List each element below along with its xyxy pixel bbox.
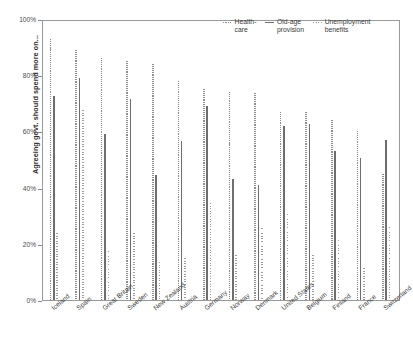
bar-healthcare bbox=[254, 93, 256, 300]
bar-healthcare bbox=[50, 39, 52, 300]
bar-group bbox=[101, 21, 110, 300]
bar-fill bbox=[155, 175, 157, 300]
bar-healthcare bbox=[126, 61, 128, 300]
bar-old-age bbox=[309, 124, 311, 300]
bar-group bbox=[75, 21, 84, 300]
bar-unemployment bbox=[133, 233, 135, 300]
bar-fill bbox=[382, 174, 384, 300]
bar-fill bbox=[82, 110, 84, 300]
bar-fill bbox=[363, 268, 365, 300]
legend-item[interactable]: Old-age provision bbox=[265, 18, 304, 35]
legend-label: Health- care bbox=[235, 18, 257, 35]
bar-unemployment bbox=[338, 240, 340, 300]
dashed-line-marker bbox=[223, 19, 232, 26]
bar-healthcare bbox=[178, 81, 180, 300]
bar-old-age bbox=[258, 185, 260, 300]
bar-unemployment bbox=[312, 255, 314, 300]
bar-fill bbox=[178, 81, 180, 300]
bar-fill bbox=[261, 228, 263, 300]
bar-fill bbox=[287, 214, 289, 300]
bar-fill bbox=[210, 203, 212, 300]
bar-group bbox=[126, 21, 135, 300]
bar-fill bbox=[50, 39, 52, 300]
bar-fill bbox=[309, 124, 311, 300]
y-axis-tick-mark bbox=[38, 301, 42, 302]
bar-fill bbox=[79, 78, 81, 300]
bar-fill bbox=[108, 251, 110, 300]
bar-fill bbox=[229, 92, 231, 300]
bar-fill bbox=[283, 126, 285, 300]
bar-unemployment bbox=[210, 203, 212, 300]
legend-item[interactable]: Health- care bbox=[223, 18, 256, 35]
bar-fill bbox=[130, 99, 132, 300]
bar-fill bbox=[206, 106, 208, 300]
bar-unemployment bbox=[287, 214, 289, 300]
chart-legend: Health- careOld-age provisionUnemploymen… bbox=[223, 18, 370, 35]
bar-group bbox=[50, 21, 59, 300]
bar-group bbox=[152, 21, 161, 300]
bar-fill bbox=[181, 141, 183, 300]
bar-fill bbox=[56, 233, 58, 300]
bar-old-age bbox=[79, 78, 81, 300]
bar-series-container bbox=[43, 21, 399, 300]
bar-fill bbox=[254, 93, 256, 300]
bar-fill bbox=[104, 134, 106, 300]
bar-group bbox=[254, 21, 263, 300]
bar-fill bbox=[203, 89, 205, 300]
bar-fill bbox=[133, 233, 135, 300]
bar-old-age bbox=[283, 126, 285, 300]
bar-healthcare bbox=[75, 50, 77, 300]
bar-old-age bbox=[360, 158, 362, 300]
bar-fill bbox=[101, 58, 103, 300]
bar-unemployment bbox=[363, 268, 365, 300]
bar-group bbox=[357, 21, 366, 300]
legend-item[interactable]: Unemployment benefits bbox=[313, 18, 370, 35]
bar-fill bbox=[357, 131, 359, 300]
bar-old-age bbox=[104, 134, 106, 300]
solid-line-marker bbox=[265, 19, 274, 26]
bar-unemployment bbox=[184, 258, 186, 300]
bar-fill bbox=[331, 120, 333, 300]
bar-fill bbox=[159, 262, 161, 300]
bar-unemployment bbox=[108, 251, 110, 300]
bar-healthcare bbox=[152, 64, 154, 300]
bar-old-age bbox=[206, 106, 208, 300]
bar-healthcare bbox=[357, 131, 359, 300]
legend-label: Old-age provision bbox=[277, 18, 304, 35]
bar-fill bbox=[258, 185, 260, 300]
bar-old-age bbox=[53, 96, 55, 300]
y-axis-tick-label: 100% bbox=[0, 16, 36, 23]
legend-label: Unemployment benefits bbox=[325, 18, 371, 35]
bar-fill bbox=[334, 151, 336, 300]
bar-old-age bbox=[334, 151, 336, 300]
bar-fill bbox=[184, 258, 186, 300]
bar-fill bbox=[312, 255, 314, 300]
bar-healthcare bbox=[101, 58, 103, 300]
bar-group bbox=[280, 21, 289, 300]
bar-healthcare bbox=[331, 120, 333, 300]
bar-group bbox=[382, 21, 391, 300]
bar-fill bbox=[53, 96, 55, 300]
y-axis-tick-label: 0% bbox=[0, 297, 36, 304]
bar-unemployment bbox=[56, 233, 58, 300]
bar-fill bbox=[75, 50, 77, 300]
bar-unemployment bbox=[389, 227, 391, 300]
bar-fill bbox=[232, 179, 234, 300]
y-axis-tick-label: 40% bbox=[0, 185, 36, 192]
bar-old-age bbox=[130, 99, 132, 300]
bar-unemployment bbox=[159, 262, 161, 300]
bar-fill bbox=[360, 158, 362, 300]
bar-group bbox=[331, 21, 340, 300]
bar-healthcare bbox=[382, 174, 384, 300]
bar-old-age bbox=[232, 179, 234, 300]
bar-old-age bbox=[155, 175, 157, 300]
bar-unemployment bbox=[261, 228, 263, 300]
bar-healthcare bbox=[203, 89, 205, 300]
bar-healthcare bbox=[229, 92, 231, 300]
bar-fill bbox=[385, 140, 387, 300]
dotted-line-marker bbox=[313, 19, 322, 26]
bar-fill bbox=[305, 112, 307, 300]
bar-healthcare bbox=[280, 112, 282, 300]
bar-group bbox=[229, 21, 238, 300]
bar-group bbox=[178, 21, 187, 300]
